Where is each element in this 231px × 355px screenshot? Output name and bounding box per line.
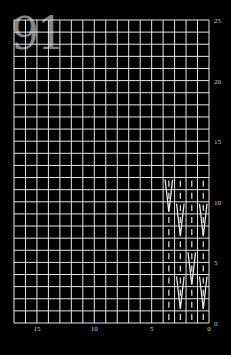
x-axis-label: 10 [91, 325, 99, 333]
y-axis-label: 0 [214, 320, 218, 328]
y-axis-label: 10 [214, 199, 222, 207]
y-axis-label: 20 [214, 78, 222, 86]
x-axis-label: 15 [33, 325, 41, 333]
x-axis-label: 5 [150, 325, 154, 333]
y-axis-label: 5 [214, 259, 218, 267]
knitting-chart: 1510500510152025 [0, 0, 231, 355]
y-axis-label: 15 [214, 138, 222, 146]
y-axis-label: 25 [214, 17, 222, 25]
x-axis-label: 0 [207, 325, 211, 333]
